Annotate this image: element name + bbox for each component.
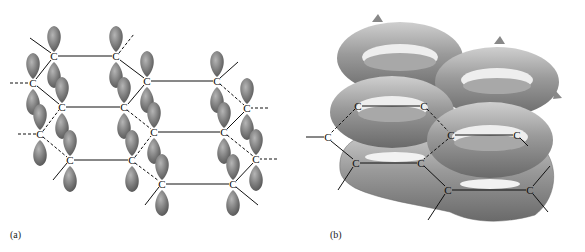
svg-text:C: C xyxy=(243,102,250,114)
orbital-diagram: CCC CCC CCC CCC CCC C xyxy=(0,0,585,252)
svg-text:C: C xyxy=(420,100,427,112)
panel-a-p-orbitals xyxy=(26,26,263,216)
svg-text:C: C xyxy=(526,184,533,196)
svg-text:C: C xyxy=(513,129,520,141)
svg-text:C: C xyxy=(150,126,157,138)
svg-text:C: C xyxy=(58,101,65,113)
svg-text:C: C xyxy=(444,184,451,196)
svg-text:C: C xyxy=(66,154,73,166)
svg-text:C: C xyxy=(354,100,361,112)
svg-text:C: C xyxy=(50,50,57,62)
svg-text:C: C xyxy=(447,129,454,141)
svg-text:C: C xyxy=(324,131,331,143)
svg-text:C: C xyxy=(252,153,259,165)
svg-text:C: C xyxy=(128,154,135,166)
svg-text:C: C xyxy=(29,77,36,89)
panel-b-label: (b) xyxy=(330,229,342,240)
svg-text:C: C xyxy=(352,157,359,169)
svg-text:C: C xyxy=(417,157,424,169)
svg-text:C: C xyxy=(158,178,165,190)
svg-text:C: C xyxy=(120,101,127,113)
svg-text:C: C xyxy=(36,128,43,140)
svg-text:C: C xyxy=(213,75,220,87)
svg-text:C: C xyxy=(143,75,150,87)
svg-text:C: C xyxy=(229,178,236,190)
svg-text:C: C xyxy=(112,50,119,62)
svg-text:C: C xyxy=(220,126,227,138)
panel-a-label: (a) xyxy=(10,229,21,240)
